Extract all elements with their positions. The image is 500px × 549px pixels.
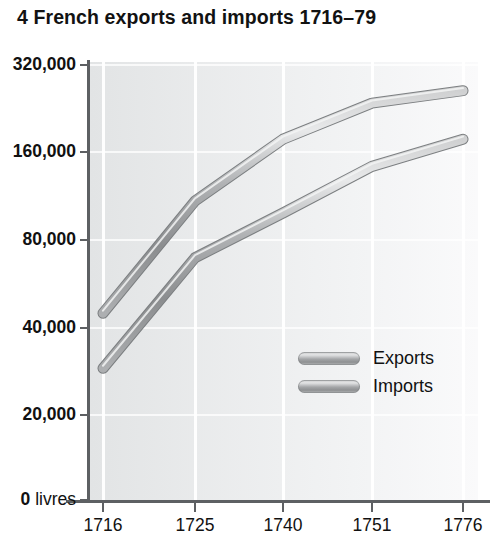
data-series-layer bbox=[0, 0, 500, 549]
series-exports-outline bbox=[103, 91, 463, 314]
legend-swatch-icon-imports bbox=[298, 380, 360, 393]
chart-legend: ExportsImports bbox=[298, 344, 434, 400]
legend-label-exports: Exports bbox=[373, 348, 434, 369]
series-highlight-exports bbox=[103, 88, 463, 311]
legend-swatch-icon-exports bbox=[298, 352, 360, 365]
series-line-exports bbox=[103, 91, 463, 314]
chart-figure: 4 French exports and imports 1716–79 0 l… bbox=[0, 0, 500, 549]
legend-item-imports[interactable]: Imports bbox=[298, 372, 434, 400]
legend-label-imports: Imports bbox=[373, 376, 433, 397]
legend-item-exports[interactable]: Exports bbox=[298, 344, 434, 372]
